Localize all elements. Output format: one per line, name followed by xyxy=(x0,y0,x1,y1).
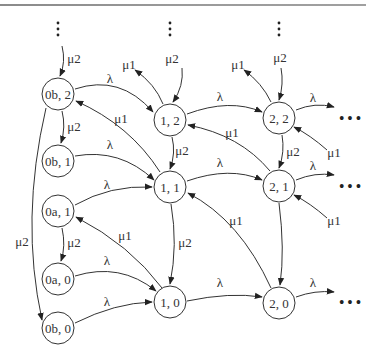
label-lambda: λ xyxy=(217,275,224,290)
vertical-ellipsis-col2 xyxy=(278,22,281,37)
label-mu1: μ1 xyxy=(229,213,242,228)
svg-text:1, 0: 1, 0 xyxy=(160,295,180,310)
label-lambda: λ xyxy=(310,90,317,105)
vertical-ellipsis-col0 xyxy=(57,22,60,37)
state-node-2-0: 2, 0 xyxy=(263,287,295,319)
label-mu2: μ2 xyxy=(286,144,299,159)
label-lambda: λ xyxy=(104,253,111,268)
label-lambda: λ xyxy=(217,89,224,104)
label-lambda: λ xyxy=(104,294,111,309)
svg-text:2, 1: 2, 1 xyxy=(269,179,289,194)
state-diagram: μ2 μ2 μ2 μ2 λ λ λ λ λ μ1 μ1 μ2 μ1 μ2 μ2 … xyxy=(0,0,366,360)
label-mu1: μ1 xyxy=(327,145,340,160)
label-mu2: μ2 xyxy=(67,51,80,66)
state-node-0b0: 0b, 0 xyxy=(42,312,74,344)
horizontal-ellipsis: • • • xyxy=(339,179,361,194)
label-mu1: μ1 xyxy=(225,125,238,140)
label-mu1: μ1 xyxy=(118,228,131,243)
label-mu1: μ1 xyxy=(122,57,135,72)
horizontal-ellipsis: • • • xyxy=(339,295,361,310)
state-node-2-1: 2, 1 xyxy=(263,170,295,202)
label-mu1: μ1 xyxy=(114,111,127,126)
state-node-1-0: 1, 0 xyxy=(154,286,186,318)
svg-text:0a, 1: 0a, 1 xyxy=(45,204,70,219)
state-node-0a1: 0a, 1 xyxy=(42,195,74,227)
label-mu1: μ1 xyxy=(327,213,340,228)
horizontal-ellipsis: • • • xyxy=(339,111,361,126)
label-lambda: λ xyxy=(107,71,114,86)
svg-text:0b, 1: 0b, 1 xyxy=(45,154,71,169)
state-node-0b1: 0b, 1 xyxy=(42,145,74,177)
svg-text:1, 2: 1, 2 xyxy=(160,113,180,128)
state-node-0b2: 0b, 2 xyxy=(42,78,74,110)
label-mu2: μ2 xyxy=(67,119,80,134)
state-node-2-2: 2, 2 xyxy=(263,102,295,134)
svg-text:0a, 0: 0a, 0 xyxy=(45,272,70,287)
label-lambda: λ xyxy=(310,158,317,173)
vertical-ellipsis-col1 xyxy=(169,22,172,37)
label-lambda: λ xyxy=(310,275,317,290)
state-node-0a0: 0a, 0 xyxy=(42,263,74,295)
label-lambda: λ xyxy=(107,137,114,152)
label-lambda: λ xyxy=(217,155,224,170)
svg-text:0b, 0: 0b, 0 xyxy=(45,321,71,336)
svg-text:1, 1: 1, 1 xyxy=(160,180,180,195)
label-mu2: μ2 xyxy=(15,234,28,249)
label-mu2: μ2 xyxy=(165,51,178,66)
label-mu2: μ2 xyxy=(175,143,188,158)
svg-text:2, 0: 2, 0 xyxy=(269,296,289,311)
label-mu1: μ1 xyxy=(231,57,244,72)
state-node-1-1: 1, 1 xyxy=(154,171,186,203)
svg-text:2, 2: 2, 2 xyxy=(269,111,289,126)
state-node-1-2: 1, 2 xyxy=(154,104,186,136)
svg-text:0b, 2: 0b, 2 xyxy=(45,87,71,102)
label-mu2: μ2 xyxy=(273,50,286,65)
label-lambda: λ xyxy=(104,177,111,192)
label-mu2: μ2 xyxy=(178,235,191,250)
label-mu2: μ2 xyxy=(67,235,80,250)
